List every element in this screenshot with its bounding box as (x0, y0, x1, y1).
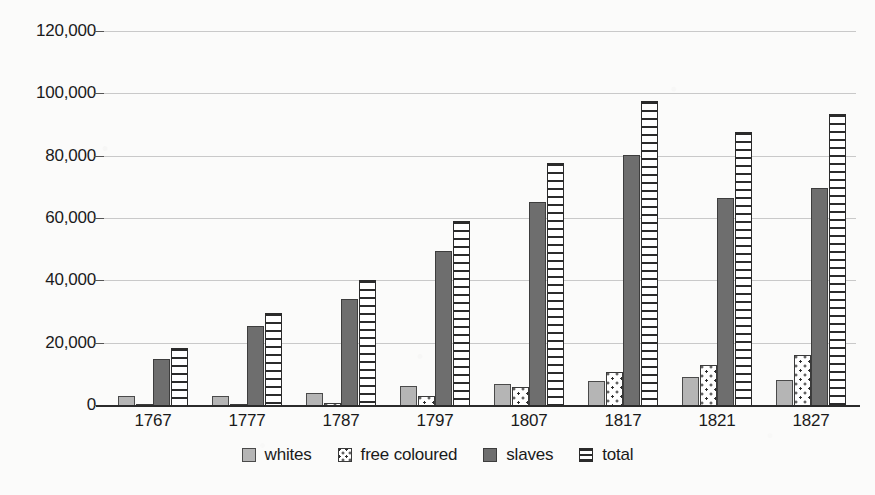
legend-item-whites: whites (242, 445, 312, 465)
legend-label: slaves (506, 445, 553, 465)
bar-free-coloured-1827 (794, 355, 811, 406)
bar-slaves-1797 (435, 251, 452, 406)
y-axis-tick-mark (94, 156, 104, 157)
y-axis-tick-label: 120,000 (4, 21, 96, 41)
x-axis-tick-label: 1817 (604, 411, 641, 431)
bar-total-1821 (735, 132, 752, 406)
swatch-free-coloured-icon (338, 448, 352, 462)
bar-whites-1827 (776, 380, 793, 406)
bar-free-coloured-1807 (512, 387, 529, 406)
bar-group-1827 (762, 31, 856, 406)
bar-total-1767 (171, 348, 188, 406)
legend-item-total: total (579, 445, 633, 465)
bar-group-1821 (668, 31, 762, 406)
y-axis: 020,00040,00060,00080,000100,000120,000 (0, 0, 96, 495)
legend-label: total (602, 445, 633, 465)
bar-free-coloured-1817 (606, 372, 623, 406)
bar-total-1787 (359, 280, 376, 406)
x-axis-tick-label: 1767 (134, 411, 171, 431)
y-axis-tick-label: 100,000 (4, 83, 96, 103)
y-axis-tick-mark (94, 280, 104, 281)
x-axis-tick-label: 1821 (698, 411, 735, 431)
x-axis-tick-label: 1787 (322, 411, 359, 431)
bar-slaves-1807 (529, 202, 546, 406)
x-axis-line (96, 405, 860, 407)
bar-slaves-1767 (153, 359, 170, 406)
bar-chart-figure: 020,00040,00060,00080,000100,000120,000 … (0, 0, 875, 495)
bar-group-1767 (104, 31, 198, 406)
bar-slaves-1817 (623, 155, 640, 406)
bar-free-coloured-1821 (700, 365, 717, 406)
y-axis-tick-mark (94, 343, 104, 344)
y-axis-tick-label: 60,000 (4, 208, 96, 228)
bar-whites-1821 (682, 377, 699, 406)
legend-item-slaves: slaves (483, 445, 553, 465)
bar-whites-1817 (588, 381, 605, 406)
x-axis: 17671777178717971807181718211827 (104, 411, 856, 441)
plot-area (104, 31, 856, 406)
y-axis-tick-label: 20,000 (4, 333, 96, 353)
bar-slaves-1827 (811, 188, 828, 406)
legend-label: free coloured (361, 445, 458, 465)
x-axis-tick-label: 1807 (510, 411, 547, 431)
bar-group-1807 (480, 31, 574, 406)
swatch-total-icon (579, 448, 593, 462)
swatch-whites-icon (242, 448, 256, 462)
bar-slaves-1821 (717, 198, 734, 406)
y-axis-tick-label: 0 (4, 395, 96, 415)
y-axis-tick-mark (94, 93, 104, 94)
bar-slaves-1787 (341, 299, 358, 406)
bar-whites-1797 (400, 386, 417, 406)
bar-whites-1807 (494, 384, 511, 406)
y-axis-tick-label: 80,000 (4, 146, 96, 166)
bar-group-1817 (574, 31, 668, 406)
bar-total-1777 (265, 313, 282, 406)
legend-label: whites (265, 445, 312, 465)
bar-group-1797 (386, 31, 480, 406)
bar-total-1797 (453, 221, 470, 406)
bar-whites-1787 (306, 393, 323, 406)
y-axis-tick-mark (94, 31, 104, 32)
bar-group-1777 (198, 31, 292, 406)
bar-total-1807 (547, 163, 564, 406)
bar-group-1787 (292, 31, 386, 406)
y-axis-tick-label: 40,000 (4, 270, 96, 290)
bar-slaves-1777 (247, 326, 264, 406)
bar-total-1817 (641, 101, 658, 406)
swatch-slaves-icon (483, 448, 497, 462)
legend-item-free-coloured: free coloured (338, 445, 458, 465)
x-axis-tick-label: 1777 (228, 411, 265, 431)
chart-legend: whitesfree colouredslavestotal (0, 445, 875, 465)
x-axis-tick-label: 1827 (792, 411, 829, 431)
bar-total-1827 (829, 114, 846, 406)
bar-groups (104, 31, 856, 406)
x-axis-tick-label: 1797 (416, 411, 453, 431)
y-axis-tick-mark (94, 218, 104, 219)
